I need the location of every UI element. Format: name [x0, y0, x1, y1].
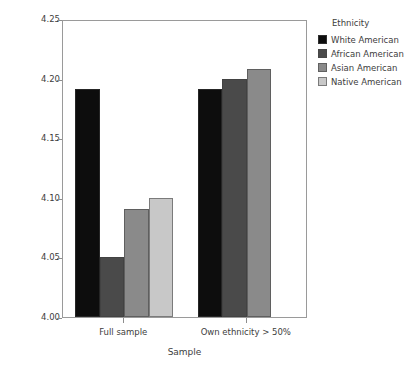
y-tick-label: 4.15: [0, 133, 60, 145]
bar: [247, 69, 272, 317]
legend-item: Native American: [318, 75, 417, 88]
x-axis-title: Sample: [62, 347, 307, 357]
legend-swatch-icon: [318, 63, 327, 72]
bar: [75, 89, 100, 317]
plot-panel: [62, 20, 307, 318]
bar: [124, 209, 149, 317]
legend-swatch-icon: [318, 35, 327, 44]
legend-item-label: Asian American: [331, 63, 397, 73]
legend-item-label: White American: [331, 35, 399, 45]
legend-item: African American: [318, 47, 417, 60]
legend: Ethnicity White AmericanAfrican American…: [318, 18, 417, 89]
y-tick-label: 4.00: [0, 312, 60, 324]
bar: [198, 89, 223, 317]
legend-title: Ethnicity: [332, 18, 417, 28]
x-tick-mark: [246, 318, 247, 323]
legend-item-label: African American: [331, 49, 404, 59]
legend-item: Asian American: [318, 61, 417, 74]
y-tick-label: 4.10: [0, 193, 60, 205]
x-tick-label: Own ethnicity > 50%: [171, 327, 321, 337]
legend-swatch-icon: [318, 77, 327, 86]
legend-item: White American: [318, 33, 417, 46]
legend-item-label: Native American: [331, 77, 402, 87]
plot-area: [63, 21, 306, 317]
y-tick-label: 4.05: [0, 252, 60, 264]
bar: [222, 79, 247, 317]
y-tick-label: 4.25: [0, 14, 60, 26]
y-tick-mark: [57, 318, 62, 319]
y-tick-label: 4.20: [0, 74, 60, 86]
bar-chart-figure: Mean life satisfaction 4.254.204.154.104…: [0, 0, 417, 371]
bar: [149, 198, 174, 317]
x-tick-mark: [123, 318, 124, 323]
legend-swatch-icon: [318, 49, 327, 58]
legend-items: White AmericanAfrican AmericanAsian Amer…: [318, 33, 417, 88]
bar: [100, 257, 125, 317]
